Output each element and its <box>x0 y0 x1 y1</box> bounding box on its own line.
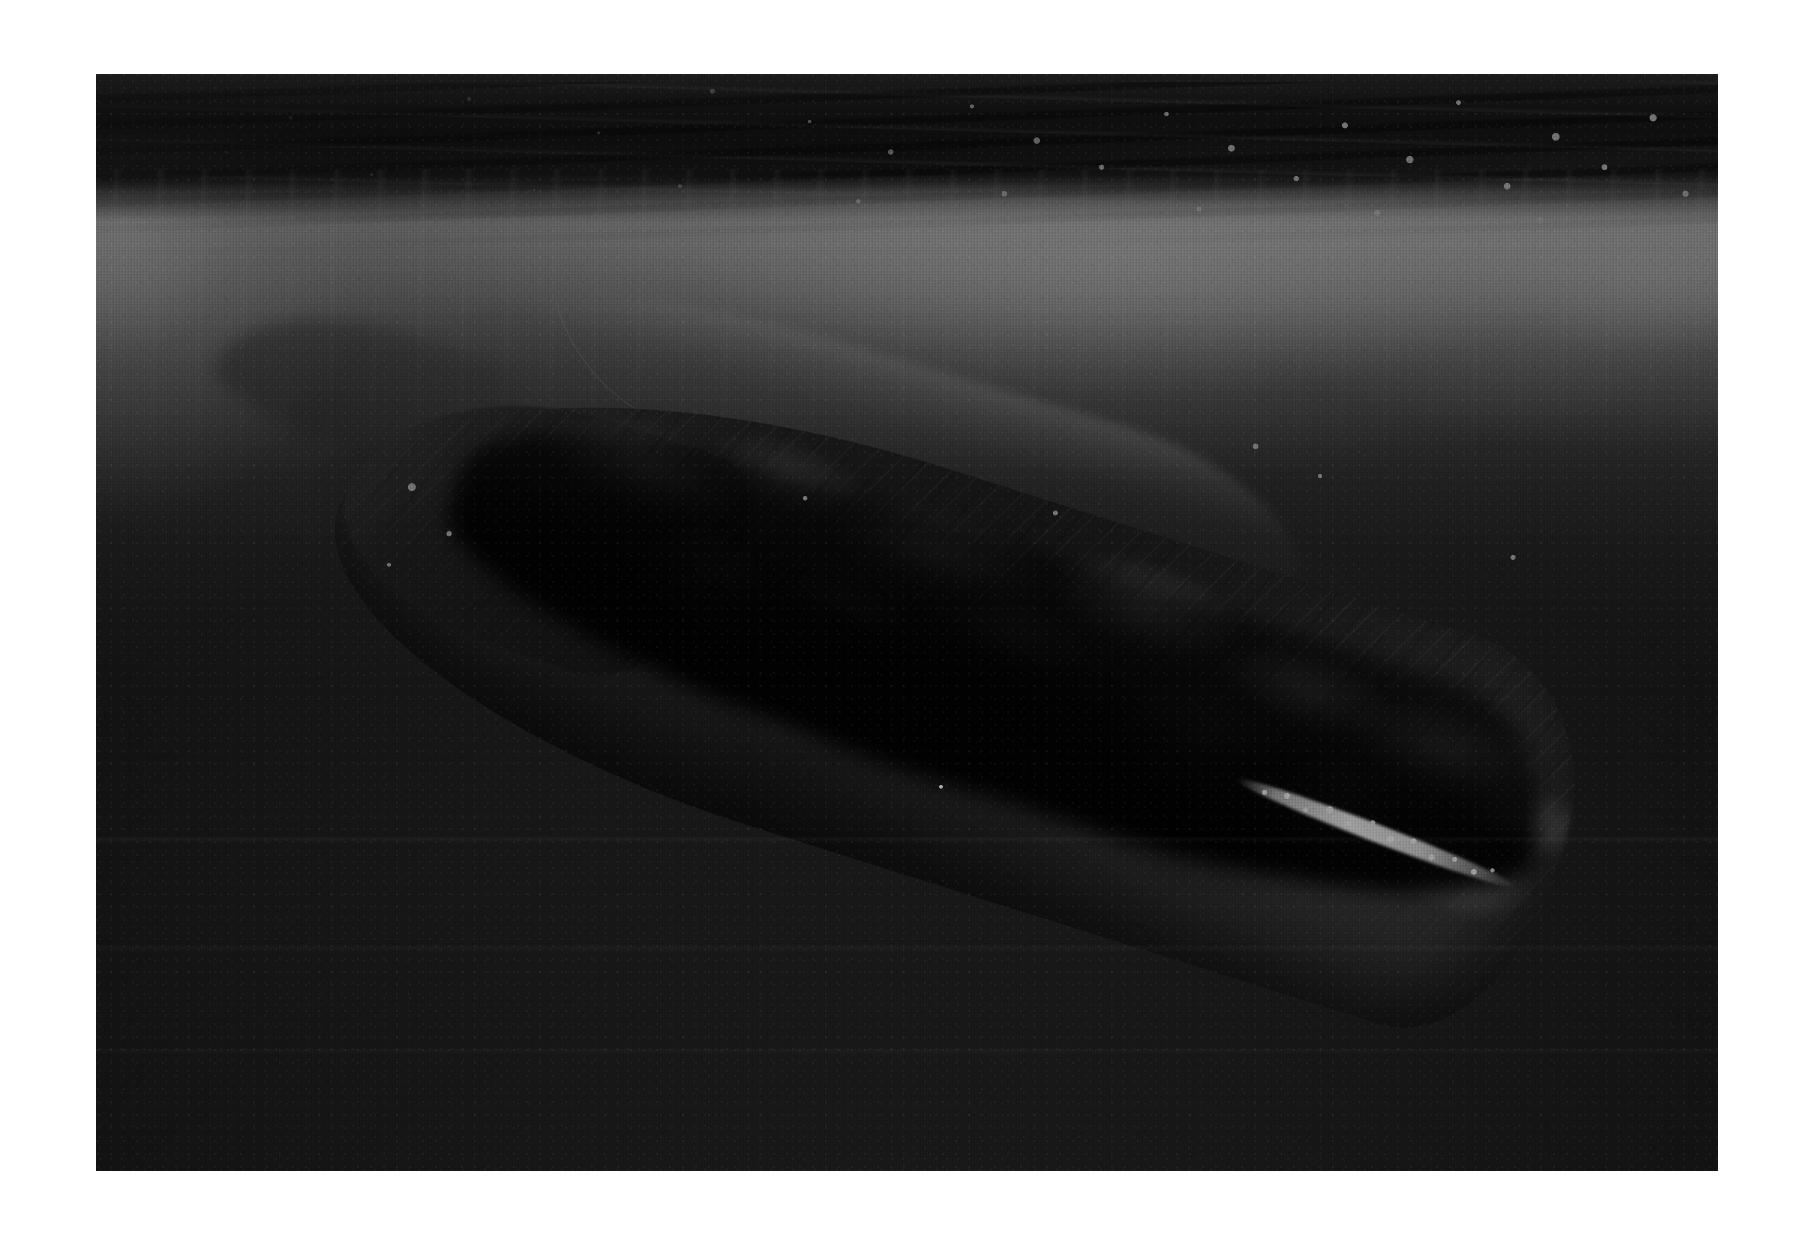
depth-vignette <box>96 74 1718 1171</box>
photograph-plate <box>96 74 1718 1171</box>
page-canvas <box>0 0 1815 1239</box>
